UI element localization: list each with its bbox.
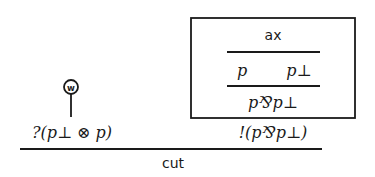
axiom-label: ax	[265, 27, 282, 43]
cut-label: cut	[162, 155, 185, 171]
axiom-conclusion-p-perp: p⊥	[286, 61, 311, 80]
left-formula: ?(p⊥ ⊗ p)	[32, 123, 112, 142]
proof-net-diagram: ax p p⊥ p⅋p⊥ w ?(p⊥ ⊗ p) !(p⅋p⊥) cut	[0, 0, 375, 177]
weakening-node: w	[64, 80, 78, 117]
axiom-conclusion-p: p	[237, 61, 247, 80]
promotion-box: ax p p⊥ p⅋p⊥	[191, 18, 355, 118]
right-formula: !(p⅋p⊥)	[239, 123, 308, 142]
weakening-label: w	[67, 83, 75, 93]
par-conclusion: p⅋p⊥	[248, 93, 298, 112]
